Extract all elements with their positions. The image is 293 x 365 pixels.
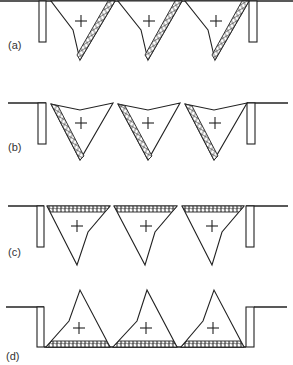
triangle-3 (185, 1, 249, 60)
triangle-1 (51, 103, 113, 160)
triangle-3 (181, 290, 244, 347)
triangle-2 (118, 1, 182, 60)
right-post (246, 206, 254, 247)
panel-label-a: (a) (8, 39, 21, 51)
left-post (37, 206, 44, 247)
panel-d: (d) (6, 290, 287, 362)
diagram: (a) (b) (0, 0, 293, 365)
triangle-1 (46, 290, 110, 347)
triangle-1 (51, 1, 115, 60)
right-post (247, 103, 255, 144)
right-post (246, 307, 254, 347)
triangle-2 (118, 103, 180, 160)
panel-label-b: (b) (8, 141, 21, 153)
left-post (39, 1, 46, 42)
triangle-3 (185, 103, 247, 160)
panel-a: (a) (0, 1, 293, 60)
panel-b: (b) (8, 103, 288, 160)
panel-c: (c) (8, 206, 288, 265)
panel-label-d: (d) (6, 350, 19, 362)
triangle-1 (47, 206, 110, 265)
right-post (249, 1, 257, 42)
triangle-2 (114, 206, 177, 265)
left-post (38, 103, 46, 144)
left-post (37, 307, 44, 347)
panel-label-c: (c) (8, 246, 21, 258)
triangle-2 (113, 290, 177, 347)
triangle-3 (182, 206, 244, 265)
